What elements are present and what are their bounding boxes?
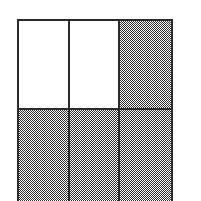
grid-cell-row2-col3	[120, 110, 171, 201]
grid-cell-row2-col2	[70, 110, 121, 201]
grid-cell-row2-col1	[19, 110, 70, 201]
fraction-area-model-grid	[17, 19, 173, 201]
grid-cell-row1-col3	[120, 21, 171, 110]
grid-cell-row1-col1	[19, 21, 70, 110]
figure-canvas	[0, 0, 201, 201]
grid-cell-row1-col2	[70, 21, 121, 110]
